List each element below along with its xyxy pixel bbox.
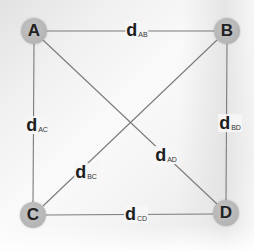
distance-symbol: d [75, 162, 86, 182]
distance-subscript: BD [231, 124, 241, 131]
node-d: D [213, 200, 239, 226]
edge-label-cd: dCD [124, 205, 148, 223]
distance-subscript: BC [87, 173, 97, 180]
distance-symbol: d [155, 145, 166, 165]
node-b: B [214, 18, 240, 44]
distance-subscript: CD [137, 215, 147, 222]
node-label: A [28, 21, 40, 41]
edge-label-ab: dAB [125, 21, 148, 39]
node-label: C [27, 205, 39, 225]
distance-symbol: d [219, 113, 230, 133]
edge-label-ac: dAC [25, 116, 49, 134]
distance-symbol: d [126, 20, 137, 40]
distance-subscript: AB [138, 31, 147, 38]
distance-symbol: d [26, 115, 37, 135]
edge-label-bc: dBC [74, 163, 98, 181]
distance-subscript: AD [167, 156, 177, 163]
edge-label-ad: dAD [154, 146, 178, 164]
node-label: D [220, 203, 232, 223]
node-a: A [21, 18, 47, 44]
diagram-canvas: dAB dAC dBD dBC dAD dCD A B C D [0, 0, 254, 251]
distance-subscript: AC [38, 126, 48, 133]
edge-label-bd: dBD [218, 114, 242, 132]
node-c: C [20, 202, 46, 228]
distance-symbol: d [125, 204, 136, 224]
node-label: B [221, 21, 233, 41]
